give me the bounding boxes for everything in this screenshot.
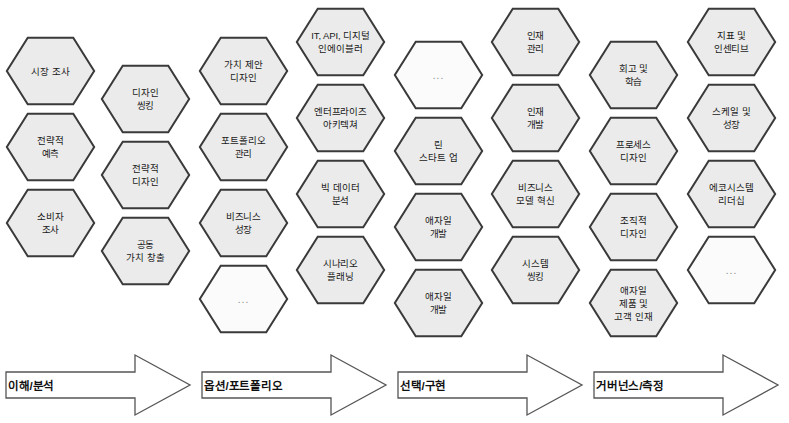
hexagon-node[interactable]: ...	[198, 264, 289, 334]
hexagon-label: 엔터프라이즈 아키텍쳐	[305, 105, 376, 131]
hexagon-node[interactable]: 비즈니스 모델 혁신	[490, 159, 581, 229]
hexagon-label: 전략적 예측	[28, 134, 73, 160]
hexagon-label: IT, API, 디지털 인에이블러	[302, 29, 379, 55]
hexagon-label: 비즈니스 모델 혁신	[507, 181, 563, 207]
hexagon-label: ...	[229, 293, 258, 306]
hexagon-label: 빅 데이터 분석	[312, 181, 368, 207]
phase-arrow-label: 옵션/포트폴리오	[204, 377, 283, 393]
hexagon-node[interactable]: 엔터프라이즈 아키텍쳐	[295, 83, 386, 153]
hexagon-label: 시장 조사	[22, 65, 78, 78]
hexagon-label: 소비자 조사	[28, 210, 73, 236]
hexagon-node[interactable]: 스케일 및 성장	[686, 83, 777, 153]
hexagon-label: 회고 및 학습	[610, 62, 657, 88]
hexagon-node[interactable]: 애자일 개발	[393, 268, 484, 338]
hexagon-node[interactable]: 시스템 씽킹	[490, 235, 581, 305]
hexagon-node[interactable]: ...	[393, 40, 484, 110]
hexagon-node[interactable]: IT, API, 디지털 인에이블러	[295, 7, 386, 77]
hexagon-node[interactable]: 디자인 씽킹	[100, 64, 191, 134]
hexagon-node[interactable]: 에코시스템 리더십	[686, 159, 777, 229]
hexagon-node[interactable]: 프로세스 디자인	[588, 116, 679, 186]
hexagon-node[interactable]: 회고 및 학습	[588, 40, 679, 110]
hexagon-node[interactable]: 시나리오 플래닝	[295, 235, 386, 305]
hexagon-capability-map: 시장 조사전략적 예측소비자 조사디자인 씽킹전략적 디자인공동 가치 창출가치…	[0, 0, 789, 423]
hexagon-node[interactable]: 전략적 디자인	[100, 140, 191, 210]
hexagon-label: ...	[424, 69, 453, 82]
phase-arrow[interactable]: 선택/구현	[396, 352, 584, 418]
phase-arrow-label: 이해/분석	[8, 377, 54, 393]
hexagon-label: 애자일 개발	[416, 290, 461, 316]
hexagon-label: 프로세스 디자인	[607, 138, 661, 164]
hexagon-node[interactable]: 비즈니스 성장	[198, 188, 289, 258]
hexagon-node[interactable]: 공동 가치 창출	[100, 216, 191, 286]
hexagon-label: 디자인 씽킹	[123, 86, 168, 112]
hexagon-node[interactable]: 시장 조사	[5, 36, 96, 106]
hexagon-label: 스케일 및 성장	[703, 105, 759, 131]
hexagon-label: 린 스타트 업	[410, 138, 466, 164]
hexagon-node[interactable]: 인재 개발	[490, 83, 581, 153]
hexagon-label: 지표 및 인센티브	[705, 29, 759, 55]
hexagon-node[interactable]: 전략적 예측	[5, 112, 96, 182]
hexagon-node[interactable]: 조직적 디자인	[588, 192, 679, 262]
phase-arrow-label: 선택/구현	[400, 377, 446, 393]
hexagon-label: 인재 개발	[518, 105, 554, 131]
hexagon-node[interactable]: 가치 제안 디자인	[198, 36, 289, 106]
hexagon-label: 시나리오 플래닝	[314, 257, 368, 283]
phase-arrow-label: 거버넌스/측정	[596, 377, 664, 393]
hexagon-node[interactable]: 포트폴리오 관리	[198, 112, 289, 182]
hexagon-node[interactable]: 지표 및 인센티브	[686, 7, 777, 77]
hexagon-node[interactable]: 애자일 개발	[393, 192, 484, 262]
phase-arrow[interactable]: 이해/분석	[4, 352, 192, 418]
hexagon-label: 전략적 디자인	[123, 162, 168, 188]
hexagon-label: 가치 제안 디자인	[215, 58, 271, 84]
hexagon-label: 에코시스템 리더십	[700, 181, 763, 207]
hexagon-label: 시스템 씽킹	[513, 257, 558, 283]
phase-arrow[interactable]: 거버넌스/측정	[592, 352, 780, 418]
hexagon-label: 포트폴리오 관리	[212, 134, 275, 160]
hexagon-node[interactable]: 소비자 조사	[5, 188, 96, 258]
hexagon-node[interactable]: ...	[686, 235, 777, 305]
phase-arrow[interactable]: 옵션/포트폴리오	[200, 352, 388, 418]
hexagon-label: 애자일 개발	[416, 214, 461, 240]
hexagon-node[interactable]: 인재 관리	[490, 7, 581, 77]
hexagon-node[interactable]: 빅 데이터 분석	[295, 159, 386, 229]
hexagon-label: 애자일 제품 및 고객 인재	[605, 284, 661, 323]
hexagon-label: 비즈니스 성장	[217, 210, 271, 236]
hexagon-label: 조직적 디자인	[611, 214, 656, 240]
hexagon-label: 공동 가치 창출	[117, 238, 173, 264]
hexagon-node[interactable]: 애자일 제품 및 고객 인재	[588, 268, 679, 338]
hexagon-label: ...	[717, 264, 746, 277]
hexagon-node[interactable]: 린 스타트 업	[393, 116, 484, 186]
hexagon-label: 인재 관리	[518, 29, 554, 55]
